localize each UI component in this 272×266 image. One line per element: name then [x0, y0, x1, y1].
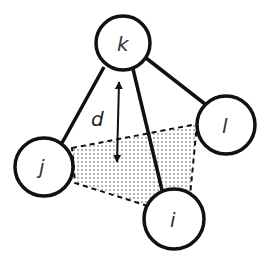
- tetrahedron-diagram: d k l j i: [0, 0, 272, 266]
- node-label-k: k: [117, 32, 130, 56]
- node-l: l: [197, 96, 255, 154]
- node-k: k: [96, 16, 150, 70]
- node-i: i: [144, 189, 204, 249]
- node-j: j: [15, 138, 73, 196]
- node-label-i: i: [170, 208, 176, 232]
- node-label-l: l: [222, 114, 228, 138]
- edge-k-j: [62, 67, 104, 143]
- distance-label: d: [91, 107, 104, 131]
- edge-k-l: [146, 58, 205, 104]
